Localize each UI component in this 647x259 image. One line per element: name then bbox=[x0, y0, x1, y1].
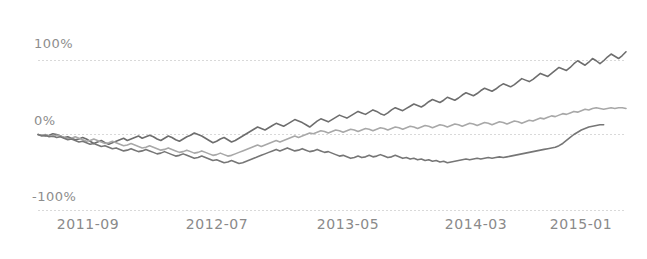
y-axis-label-neg100: -100% bbox=[32, 189, 76, 204]
series-group bbox=[38, 52, 626, 164]
x-axis-label-2014-03: 2014-03 bbox=[445, 216, 508, 232]
x-axis-label-2015-01: 2015-01 bbox=[550, 216, 613, 232]
x-axis-label-2013-05: 2013-05 bbox=[317, 216, 380, 232]
line-chart: 100% 0% -100% 2011-09 2012-07 2013-05 20… bbox=[0, 0, 647, 259]
x-axis-label-2011-09: 2011-09 bbox=[57, 216, 120, 232]
y-axis-label-100: 100% bbox=[34, 36, 73, 51]
series-line-1 bbox=[38, 52, 626, 144]
series-line-2 bbox=[38, 108, 626, 156]
y-axis-label-0: 0% bbox=[34, 113, 56, 128]
x-axis-label-2012-07: 2012-07 bbox=[186, 216, 249, 232]
gridlines bbox=[38, 61, 626, 211]
